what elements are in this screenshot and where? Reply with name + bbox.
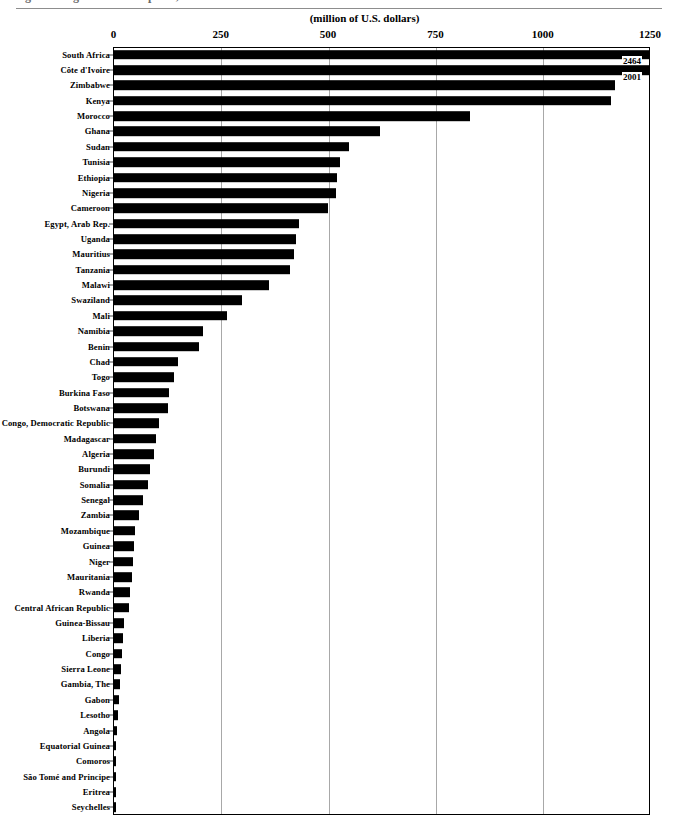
y-axis-tick xyxy=(109,484,113,485)
category-label: São Tomé and Principe xyxy=(23,772,110,782)
bar xyxy=(114,680,120,690)
category-label: Swaziland xyxy=(71,295,110,305)
bar-row: Senegal xyxy=(0,492,674,507)
y-axis-tick xyxy=(109,515,113,516)
bar xyxy=(114,557,133,567)
bar-row: Zimbabwe xyxy=(0,78,674,93)
y-axis-tick xyxy=(109,699,113,700)
category-label: Sierra Leone xyxy=(61,664,110,674)
y-axis-tick xyxy=(109,745,113,746)
x-axis-tick-label: 750 xyxy=(427,28,444,40)
bar xyxy=(114,96,611,106)
category-label: Congo xyxy=(86,649,110,659)
bar-row: Egypt, Arab Rep. xyxy=(0,216,674,231)
bar xyxy=(114,741,116,751)
bar-row: Guinea-Bissau xyxy=(0,615,674,630)
bar xyxy=(114,188,336,198)
bar-row: Botswana xyxy=(0,400,674,415)
bar xyxy=(114,710,118,720)
category-label: Comoros xyxy=(76,756,110,766)
bar-row: Central African Republic xyxy=(0,600,674,615)
y-axis-tick xyxy=(109,331,113,332)
bar xyxy=(114,311,227,321)
y-axis-tick xyxy=(109,715,113,716)
bar xyxy=(114,357,178,367)
y-axis-tick xyxy=(109,238,113,239)
y-axis-tick xyxy=(109,638,113,639)
category-label: Botswana xyxy=(73,403,110,413)
bar xyxy=(114,587,130,597)
category-label: Ethiopia xyxy=(78,173,110,183)
bar xyxy=(114,449,154,459)
bar xyxy=(114,480,148,490)
y-axis-tick xyxy=(109,576,113,577)
y-axis-tick xyxy=(109,131,113,132)
chart-figure: 025050075010001250 South Africa2464Côte … xyxy=(0,0,674,832)
category-label: Central African Republic xyxy=(15,603,111,613)
bar-row: Madagascar xyxy=(0,431,674,446)
y-axis-tick xyxy=(109,607,113,608)
category-label: Kenya xyxy=(86,96,110,106)
bar-row: Cameroon xyxy=(0,201,674,216)
bar-row: Mauritius xyxy=(0,247,674,262)
y-axis-tick xyxy=(109,269,113,270)
bar xyxy=(114,526,135,536)
bar-row: Morocco xyxy=(0,108,674,123)
bar xyxy=(114,403,168,413)
bar xyxy=(114,142,349,152)
category-label: Chad xyxy=(90,357,110,367)
bar xyxy=(114,434,156,444)
bar-row: Guinea xyxy=(0,539,674,554)
y-axis-tick xyxy=(109,438,113,439)
bar-row: Benin xyxy=(0,339,674,354)
y-axis-tick xyxy=(109,407,113,408)
bar-row: Swaziland xyxy=(0,293,674,308)
bar xyxy=(114,250,294,260)
bar xyxy=(114,234,296,244)
y-axis-tick xyxy=(109,361,113,362)
bar xyxy=(114,511,139,521)
category-label: Zimbabwe xyxy=(70,80,110,90)
y-axis-tick xyxy=(109,669,113,670)
y-axis-tick xyxy=(109,223,113,224)
y-axis-tick xyxy=(109,346,113,347)
bar xyxy=(114,695,119,705)
bar xyxy=(114,572,132,582)
bar-row: São Tomé and Principe xyxy=(0,769,674,784)
category-label: Burundi xyxy=(78,464,110,474)
category-label: Tunisia xyxy=(82,157,110,167)
bar-row: Mozambique xyxy=(0,523,674,538)
y-axis-tick xyxy=(109,146,113,147)
bar-row: Kenya xyxy=(0,93,674,108)
y-axis-tick xyxy=(109,116,113,117)
bar-row: Mali xyxy=(0,308,674,323)
category-label: Togo xyxy=(92,372,110,382)
category-label: Tanzania xyxy=(76,265,110,275)
bar xyxy=(114,787,116,797)
bar-row: Nigeria xyxy=(0,185,674,200)
bar-row: Ethiopia xyxy=(0,170,674,185)
bar-row: Seychelles xyxy=(0,800,674,815)
bar xyxy=(114,296,242,306)
bar xyxy=(114,280,269,290)
bar-row: Liberia xyxy=(0,631,674,646)
category-label: Nigeria xyxy=(82,188,110,198)
x-axis-tick-label: 0 xyxy=(111,28,117,40)
bar xyxy=(114,127,380,137)
category-label: Gabon xyxy=(85,695,110,705)
category-label: Rwanda xyxy=(79,587,110,597)
bar xyxy=(114,157,340,167)
bar xyxy=(114,618,124,628)
category-label: Côte d'Ivoire xyxy=(60,65,110,75)
bar xyxy=(114,541,134,551)
category-label: Namibia xyxy=(78,326,110,336)
y-axis-tick xyxy=(109,469,113,470)
bar-row: Eritrea xyxy=(0,784,674,799)
y-axis-tick xyxy=(109,653,113,654)
y-axis-tick xyxy=(109,254,113,255)
bar-row: Mauritania xyxy=(0,569,674,584)
bar-row: Comoros xyxy=(0,754,674,769)
bar xyxy=(114,803,116,813)
category-label: Egypt, Arab Rep. xyxy=(44,219,110,229)
bar-row: Zambia xyxy=(0,508,674,523)
